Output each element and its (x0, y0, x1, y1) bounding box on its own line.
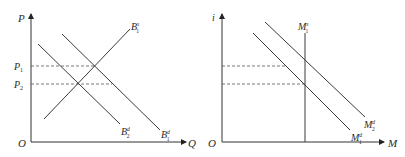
p1-label: P1 (13, 61, 23, 73)
right-y-axis-label: i (212, 12, 215, 23)
left-origin-label: O (18, 137, 26, 149)
b1s-label: Bs1 (131, 21, 139, 34)
economics-diagram: P Q O P1 P2 Bs1 Bd1 Bd2 i M O Ms1 Md1 Md… (0, 0, 405, 157)
m2d-label: Md2 (363, 119, 375, 132)
money-market-chart: i M O Ms1 Md1 Md2 (208, 12, 398, 149)
b1d-label: Bd1 (161, 129, 170, 142)
bond-market-chart: P Q O P1 P2 Bs1 Bd1 Bd2 (13, 12, 196, 149)
m1d-label: Md1 (350, 132, 362, 145)
left-y-axis-label: P (17, 12, 25, 24)
b2d-label: Bd2 (121, 126, 130, 139)
m1s-label: Ms1 (297, 21, 308, 34)
p2-label: P2 (13, 79, 23, 91)
money-demand-curve-m2d (265, 22, 365, 117)
right-origin-label: O (208, 137, 216, 149)
right-x-axis-label: M (387, 137, 398, 149)
bond-supply-curve-b1s (44, 29, 130, 119)
left-x-axis-label: Q (188, 137, 196, 149)
money-demand-curve-m1d (253, 33, 350, 130)
